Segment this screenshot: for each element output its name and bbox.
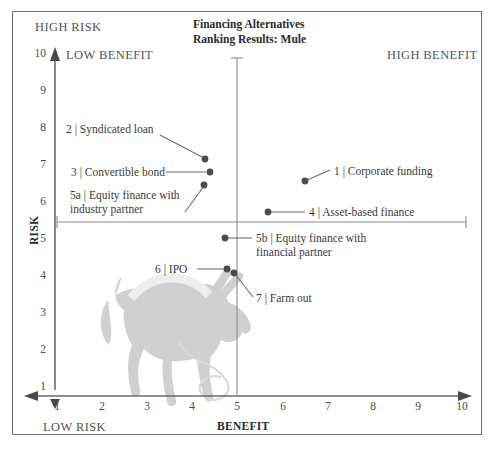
chart-title-line2: Ranking Results: Mule xyxy=(193,32,306,47)
chart-figure: Financing Alternatives Ranking Results: … xyxy=(0,0,494,461)
x-tick-9: 9 xyxy=(408,400,428,413)
point-label-4: 4 | Asset-based finance xyxy=(309,205,414,219)
quadrant-label-high-benefit: HIGH BENEFIT xyxy=(387,48,478,62)
point-label-5b: 5b | Equity finance with financial partn… xyxy=(256,231,366,259)
point-label-5a: 5a | Equity finance with industry partne… xyxy=(70,188,180,216)
chart-canvas xyxy=(0,0,494,461)
mule-illustration xyxy=(101,267,251,406)
leader-p5a xyxy=(185,186,204,212)
y-tick-1: 1 xyxy=(26,380,46,393)
y-tick-2: 2 xyxy=(26,343,46,356)
x-tick-10: 10 xyxy=(452,400,472,413)
chart-title-line1: Financing Alternatives xyxy=(193,17,306,32)
leader-p7 xyxy=(235,274,253,297)
y-tick-4: 4 xyxy=(26,269,46,282)
quadrant-label-low-benefit: LOW BENEFIT xyxy=(66,48,153,62)
x-tick-6: 6 xyxy=(273,400,293,413)
data-point-7 xyxy=(231,270,238,277)
point-label-7: 7 | Farm out xyxy=(256,291,312,305)
point-label-6: 6 | IPO xyxy=(155,262,187,276)
quadrant-label-high-risk: HIGH RISK xyxy=(35,20,101,34)
data-point-1 xyxy=(302,178,309,185)
data-point-2 xyxy=(202,156,209,163)
point-label-2: 2 | Syndicated loan xyxy=(66,122,154,136)
point-label-5a-line2: industry partner xyxy=(70,202,180,216)
data-point-3 xyxy=(207,169,214,176)
x-tick-8: 8 xyxy=(363,400,383,413)
x-tick-7: 7 xyxy=(318,400,338,413)
y-tick-9: 9 xyxy=(26,84,46,97)
point-label-5a-line1: 5a | Equity finance with xyxy=(70,188,180,202)
leader-p1 xyxy=(305,170,330,181)
y-tick-5: 5 xyxy=(26,232,46,245)
x-axis-title: BENEFIT xyxy=(217,420,270,433)
data-point-5a xyxy=(201,182,208,189)
x-tick-4: 4 xyxy=(182,400,202,413)
y-tick-8: 8 xyxy=(26,121,46,134)
point-label-5b-line2: financial partner xyxy=(256,245,366,259)
x-tick-2: 2 xyxy=(92,400,112,413)
data-point-5b xyxy=(222,235,229,242)
y-tick-7: 7 xyxy=(26,158,46,171)
x-tick-5: 5 xyxy=(227,400,247,413)
chart-title: Financing Alternatives Ranking Results: … xyxy=(193,17,306,46)
leader-p2 xyxy=(160,135,204,158)
x-tick-3: 3 xyxy=(137,400,157,413)
y-axis xyxy=(50,47,60,390)
y-tick-3: 3 xyxy=(26,306,46,319)
data-point-4 xyxy=(265,209,272,216)
point-label-1: 1 | Corporate funding xyxy=(334,164,432,178)
point-label-3: 3 | Convertible bond xyxy=(71,165,165,179)
y-tick-10: 10 xyxy=(26,47,46,60)
data-point-6 xyxy=(224,266,231,273)
y-tick-6: 6 xyxy=(26,195,46,208)
point-label-5b-line1: 5b | Equity finance with xyxy=(256,231,366,245)
quadrant-label-low-risk: LOW RISK xyxy=(43,420,106,434)
reference-line-benefit-5 xyxy=(231,58,243,395)
x-tick-1: 1 xyxy=(47,400,67,413)
